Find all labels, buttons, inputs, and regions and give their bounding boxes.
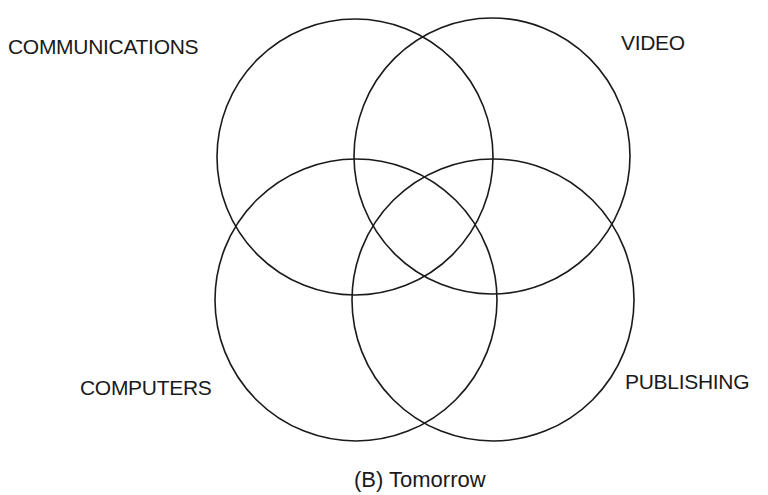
circle-computers xyxy=(215,159,497,441)
circle-video xyxy=(354,18,630,294)
circle-publishing xyxy=(352,159,634,441)
venn-diagram: COMMUNICATIONS VIDEO COMPUTERS PUBLISHIN… xyxy=(0,0,768,495)
label-video: VIDEO xyxy=(621,32,685,53)
label-computers: COMPUTERS xyxy=(80,377,211,398)
circle-communications xyxy=(217,19,493,295)
venn-circles xyxy=(0,0,768,495)
figure-caption: (B) Tomorrow xyxy=(354,469,486,491)
label-publishing: PUBLISHING xyxy=(625,371,749,392)
label-communications: COMMUNICATIONS xyxy=(8,36,198,57)
